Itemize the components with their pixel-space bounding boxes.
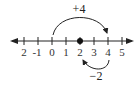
number-line-diagram: 2 -1 0 1 2 3 4 5 +4 −2 bbox=[0, 0, 140, 85]
jump-label-plus4: +4 bbox=[73, 2, 86, 16]
tick-labels: 2 -1 0 1 2 3 4 5 bbox=[21, 46, 125, 58]
tick-label: 2 bbox=[21, 46, 27, 58]
point-marker bbox=[77, 38, 83, 44]
tick-label: 4 bbox=[105, 46, 111, 58]
jump-label-minus2: −2 bbox=[90, 69, 103, 83]
right-arrowhead-icon bbox=[126, 38, 134, 44]
jump-arc-minus2 bbox=[83, 60, 109, 69]
tick-label: 5 bbox=[119, 46, 125, 58]
tick-label: 1 bbox=[63, 46, 69, 58]
tick-label: 3 bbox=[91, 46, 97, 58]
tick-label: -1 bbox=[32, 46, 41, 58]
jump-arc-plus4 bbox=[53, 17, 107, 35]
left-arrowhead-icon bbox=[10, 38, 18, 44]
tick-label: 0 bbox=[49, 46, 55, 58]
tick-label: 2 bbox=[77, 46, 83, 58]
